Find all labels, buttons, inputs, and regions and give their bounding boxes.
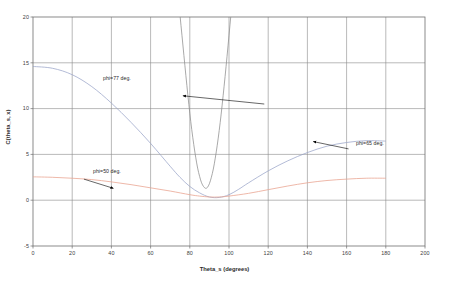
x-axis-title: Theta_s (degrees): [0, 266, 449, 272]
x-tick-label: 60: [137, 250, 165, 256]
annotation-label-phi-50: phi=50 deg.: [93, 168, 121, 174]
x-tick-label: 180: [372, 250, 400, 256]
x-tick-label: 80: [176, 250, 204, 256]
x-tick-label: 200: [411, 250, 439, 256]
y-tick-label: 20: [1, 14, 29, 20]
x-tick-label: 140: [293, 250, 321, 256]
x-tick-label: 0: [19, 250, 47, 256]
x-tick-label: 40: [97, 250, 125, 256]
chart-container: 20151050-5 020406080100120140160180200 T…: [0, 0, 449, 284]
y-tick-label: -5: [1, 243, 29, 249]
x-tick-label: 120: [254, 250, 282, 256]
annotation-label-phi-77: phi=77 deg.: [103, 75, 131, 81]
x-tick-label: 160: [333, 250, 361, 256]
y-tick-label: 15: [1, 60, 29, 66]
y-tick-label: 0: [1, 197, 29, 203]
annotation-label-phi-65: phi=65 deg.: [356, 140, 384, 146]
x-tick-label: 100: [215, 250, 243, 256]
y-axis-title: C(theta_s, x): [5, 92, 11, 162]
x-tick-label: 20: [58, 250, 86, 256]
